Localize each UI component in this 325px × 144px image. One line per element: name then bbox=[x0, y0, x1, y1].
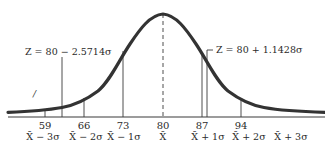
sigma-label-minus-1: X̄ − 1σ bbox=[107, 131, 141, 142]
sigma-label-minus-2: X̄ − 2σ bbox=[69, 131, 103, 142]
tick-label-73: 73 bbox=[117, 120, 130, 131]
sigma-label-mean: X̄ bbox=[160, 131, 167, 142]
sigma-label-minus-3: X̄ − 3σ bbox=[26, 131, 60, 142]
tick-label-87: 87 bbox=[196, 120, 209, 131]
tick-label-66: 66 bbox=[78, 120, 91, 131]
z-left-annotation: Z = 80 − 2.5714σ bbox=[25, 46, 112, 57]
z-right-annotation: Z = 80 + 1.1428σ bbox=[216, 44, 303, 55]
sigma-label-plus-1: X̄ + 1σ bbox=[191, 131, 225, 142]
tick-label-80: 80 bbox=[157, 120, 170, 131]
sigma-label-plus-3: X̄ + 3σ bbox=[274, 131, 308, 142]
sigma-label-plus-2: X̄ + 2σ bbox=[232, 131, 266, 142]
tick-label-94: 94 bbox=[235, 120, 248, 131]
normal-distribution-chart: Z = 80 − 2.5714σ Z = 80 + 1.1428σ / 59 6… bbox=[0, 0, 325, 144]
tick-label-59: 59 bbox=[39, 120, 52, 131]
stray-mark: / bbox=[32, 89, 37, 99]
bell-curve bbox=[8, 14, 325, 112]
